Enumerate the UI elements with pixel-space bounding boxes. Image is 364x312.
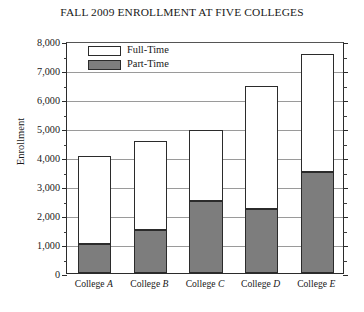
- plot-area: [66, 42, 344, 274]
- y-axis-tick: [62, 275, 67, 276]
- y-axis-minor-tick-right: [343, 58, 347, 59]
- legend-label: Part-Time: [127, 59, 169, 69]
- bar-group[interactable]: [134, 41, 167, 273]
- y-axis-tick-right: [343, 217, 348, 218]
- y-axis-minor-tick-right: [343, 232, 347, 233]
- bar-group[interactable]: [245, 41, 278, 273]
- y-axis-tick: [62, 101, 67, 102]
- x-axis-tick-label: College D: [233, 278, 289, 289]
- y-axis-minor-tick: [64, 145, 68, 146]
- y-axis-tick-right: [343, 101, 348, 102]
- y-axis-tick-label: 4,000: [4, 153, 60, 164]
- y-axis-minor-tick: [64, 87, 68, 88]
- y-axis-tick-label: 7,000: [4, 66, 60, 77]
- legend-label: Full-Time: [127, 45, 169, 55]
- bar-segment-part-time[interactable]: [245, 209, 278, 273]
- y-axis-tick-right: [343, 130, 348, 131]
- y-axis-tick: [62, 188, 67, 189]
- bar-segment-part-time[interactable]: [134, 230, 167, 274]
- y-axis-tick-label: 8,000: [4, 37, 60, 48]
- gray-swatch-icon: [88, 60, 121, 70]
- y-axis-tick-right: [343, 43, 348, 44]
- legend-item-full-time[interactable]: Full-Time: [88, 44, 184, 57]
- y-axis-tick-label: 5,000: [4, 124, 60, 135]
- bar-segment-full-time[interactable]: [134, 141, 167, 229]
- y-axis-minor-tick-right: [343, 203, 347, 204]
- y-axis-minor-tick: [64, 203, 68, 204]
- y-axis-tick-right: [343, 246, 348, 247]
- chart-title: FALL 2009 ENROLLMENT AT FIVE COLLEGES: [0, 6, 364, 18]
- y-axis-tick-right: [343, 159, 348, 160]
- x-axis-tick-label: College A: [66, 278, 122, 289]
- y-axis-minor-tick: [64, 232, 68, 233]
- legend-item-part-time[interactable]: Part-Time: [88, 58, 184, 71]
- y-axis-minor-tick-right: [343, 116, 347, 117]
- y-axis-tick: [62, 130, 67, 131]
- y-axis-minor-tick-right: [343, 174, 347, 175]
- bar-segment-part-time[interactable]: [301, 172, 334, 274]
- y-axis-tick: [62, 246, 67, 247]
- white-swatch-icon: [88, 46, 121, 56]
- chart-legend: Full-Time Part-Time: [88, 44, 184, 72]
- y-axis-tick: [62, 159, 67, 160]
- x-axis-tick-label: College C: [177, 278, 233, 289]
- y-axis-tick-right: [343, 188, 348, 189]
- y-axis-minor-tick-right: [343, 87, 347, 88]
- y-axis-tick-label: 2,000: [4, 211, 60, 222]
- y-axis-tick: [62, 217, 67, 218]
- bar-group[interactable]: [301, 41, 334, 273]
- y-axis-tick: [62, 72, 67, 73]
- y-axis-minor-tick: [64, 174, 68, 175]
- y-axis-minor-tick-right: [343, 145, 347, 146]
- y-axis-tick-label: 3,000: [4, 182, 60, 193]
- x-axis-tick-label: College E: [288, 278, 344, 289]
- bar-segment-full-time[interactable]: [189, 130, 222, 201]
- y-axis-tick-label: 0: [4, 269, 60, 280]
- x-axis-tick-label: College B: [122, 278, 178, 289]
- chart-figure: FALL 2009 ENROLLMENT AT FIVE COLLEGES En…: [0, 0, 364, 312]
- y-axis-minor-tick: [64, 58, 68, 59]
- y-axis-minor-tick: [64, 261, 68, 262]
- bar-group[interactable]: [189, 41, 222, 273]
- y-axis-tick: [62, 43, 67, 44]
- y-axis-title: Enrollment: [15, 92, 26, 192]
- bar-segment-full-time[interactable]: [78, 156, 111, 244]
- y-axis-tick-label: 1,000: [4, 240, 60, 251]
- y-axis-tick-right: [343, 275, 348, 276]
- y-axis-tick-right: [343, 72, 348, 73]
- y-axis-minor-tick: [64, 116, 68, 117]
- y-axis-minor-tick-right: [343, 261, 347, 262]
- bar-group[interactable]: [78, 41, 111, 273]
- bar-segment-full-time[interactable]: [245, 86, 278, 209]
- bar-segment-part-time[interactable]: [189, 201, 222, 274]
- bar-segment-part-time[interactable]: [78, 244, 111, 273]
- bar-segment-full-time[interactable]: [301, 54, 334, 171]
- y-axis-tick-label: 6,000: [4, 95, 60, 106]
